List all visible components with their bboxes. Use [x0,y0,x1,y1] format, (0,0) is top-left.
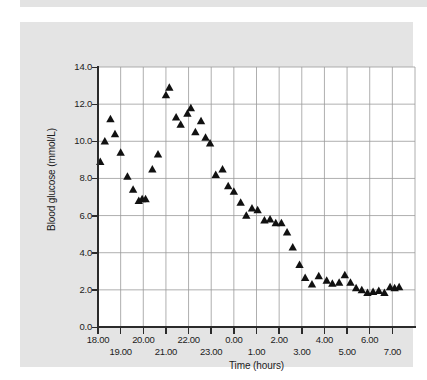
scatter-points-layer [98,67,415,327]
data-point-marker [218,165,226,172]
top-decorative-band [20,0,427,7]
data-point-marker [395,283,403,290]
chart-figure-panel: 14.012.010.08.06.04.02.00.0 18.0019.0020… [20,22,413,367]
data-point-marker [277,219,285,226]
y-axis-title: Blood glucose (mmol/L) [46,105,57,255]
x-tick-label: 2.00 [256,334,302,345]
y-tick-mark [92,141,98,143]
data-point-marker [116,148,124,155]
data-point-marker [106,115,114,122]
data-point-marker [129,185,137,192]
data-point-marker [301,274,309,281]
y-tick-mark [92,67,98,69]
y-tick-mark [92,252,98,254]
data-point-marker [165,83,173,90]
y-tick-label: 6.0 [52,211,92,221]
x-tick-label: 18.00 [75,334,121,345]
x-tick-label: 20.00 [120,334,166,345]
y-tick-mark [92,178,98,180]
data-point-marker [123,172,131,179]
data-point-marker [191,128,199,135]
y-tick-label: 8.0 [52,173,92,183]
x-tick-mark [392,328,394,334]
data-point-marker [111,130,119,137]
y-tick-label: 14.0 [52,62,92,72]
y-tick-label: 0.0 [52,322,92,332]
data-point-marker [162,91,170,98]
data-point-marker [148,165,156,172]
data-point-marker [375,287,383,294]
y-tick-label: 12.0 [52,99,92,109]
x-tick-label: 22.00 [166,334,212,345]
y-tick-mark [92,289,98,291]
data-point-marker [187,104,195,111]
data-point-marker [224,182,232,189]
data-point-marker [242,211,250,218]
data-point-marker [172,113,180,120]
data-point-marker [197,117,205,124]
x-tick-label: 0.00 [211,334,257,345]
y-tick-label: 2.0 [52,285,92,295]
data-point-marker [212,171,220,178]
y-tick-mark [92,215,98,217]
y-tick-label: 4.0 [52,248,92,258]
y-tick-mark [92,104,98,106]
x-tick-label: 1.00 [234,346,280,357]
x-tick-label: 7.00 [369,346,415,357]
plot-area [98,67,415,327]
x-tick-label: 21.00 [143,346,189,357]
data-point-marker [295,261,303,268]
data-point-marker [248,204,256,211]
x-tick-label: 19.00 [98,346,144,357]
x-axis-title: Time (hours) [98,360,415,371]
data-point-marker [341,271,349,278]
data-point-marker [283,228,291,235]
data-point-marker [315,272,323,279]
data-point-marker [346,278,354,285]
x-tick-label: 6.00 [347,334,393,345]
x-tick-label: 5.00 [324,346,370,357]
data-point-marker [176,120,184,127]
x-tick-label: 4.00 [301,334,347,345]
data-point-marker [289,243,297,250]
x-tick-label: 3.00 [279,346,325,357]
data-point-marker [236,198,244,205]
data-point-marker [201,133,209,140]
y-tick-label: 10.0 [52,136,92,146]
data-point-marker [322,276,330,283]
data-point-marker [154,150,162,157]
x-tick-label: 23.00 [188,346,234,357]
data-point-marker [266,215,274,222]
data-point-marker [101,137,109,144]
data-point-marker [308,280,316,287]
data-point-marker [335,278,343,285]
figure-root: 14.012.010.08.06.04.02.00.0 18.0019.0020… [0,0,427,380]
